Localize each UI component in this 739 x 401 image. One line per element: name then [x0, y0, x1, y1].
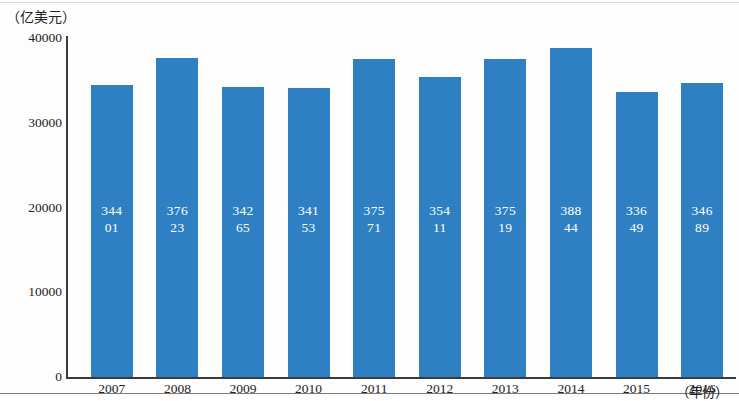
y-axis-tick: 30000 — [6, 115, 62, 131]
bar-value-label-line: 01 — [91, 219, 133, 236]
bar-value-label-line: 89 — [681, 219, 723, 236]
bar-value-label: 37623 — [156, 202, 198, 236]
x-axis-tick: 2011 — [342, 381, 406, 399]
bar-value-label-line: 342 — [222, 202, 264, 219]
bar-slot: 34265 — [211, 36, 275, 377]
figure-top-border — [0, 2, 739, 3]
bar-value-label-line: 375 — [484, 202, 526, 219]
bar-value-label-line: 341 — [288, 202, 330, 219]
bar[interactable]: 37623 — [156, 58, 198, 377]
bar-value-label-line: 388 — [550, 202, 592, 219]
bar[interactable]: 34401 — [91, 85, 133, 377]
bar-value-label-line: 344 — [91, 202, 133, 219]
bar-value-label-line: 375 — [353, 202, 395, 219]
bar-value-label: 35411 — [419, 202, 461, 236]
bar-value-label-line: 346 — [681, 202, 723, 219]
x-axis-tick: 2009 — [211, 381, 275, 399]
bar[interactable]: 38844 — [550, 48, 592, 377]
y-axis-tick: 10000 — [6, 284, 62, 300]
bar[interactable]: 34153 — [288, 88, 330, 377]
bar-value-label-line: 65 — [222, 219, 264, 236]
x-axis-tick: 2012 — [408, 381, 472, 399]
bar-slot: 37571 — [342, 36, 406, 377]
y-axis-tick: 0 — [6, 369, 62, 385]
x-axis-tick: 2010 — [277, 381, 341, 399]
bar-value-label-line: 49 — [616, 219, 658, 236]
bar-slot: 34689 — [670, 36, 734, 377]
bar-value-label: 33649 — [616, 202, 658, 236]
bar[interactable]: 34265 — [222, 87, 264, 377]
y-axis-tick: 40000 — [6, 30, 62, 46]
bar-value-label-line: 19 — [484, 219, 526, 236]
bar-slot: 35411 — [408, 36, 472, 377]
bar-slot: 33649 — [605, 36, 669, 377]
plot-area: 3440137623342653415337571354113751938844… — [68, 36, 736, 377]
bar-value-label: 34265 — [222, 202, 264, 236]
x-axis-unit-label: （年份） — [676, 381, 728, 401]
bar[interactable]: 37571 — [353, 59, 395, 377]
bar[interactable]: 33649 — [616, 92, 658, 377]
bar-value-label-line: 53 — [288, 219, 330, 236]
y-axis-tick-labels: 010000200003000040000 — [0, 0, 62, 398]
bar[interactable]: 37519 — [484, 59, 526, 377]
bar-value-label-line: 336 — [616, 202, 658, 219]
bar-value-label: 38844 — [550, 202, 592, 236]
bar-value-label: 34153 — [288, 202, 330, 236]
x-axis-tick: 2015 — [605, 381, 669, 399]
bar-value-label-line: 354 — [419, 202, 461, 219]
bar[interactable]: 35411 — [419, 77, 461, 377]
bar-value-label-line: 376 — [156, 202, 198, 219]
x-axis-tick-labels: 2007200820092010201120122013201420152016 — [68, 381, 736, 399]
x-axis-tick: 2014 — [539, 381, 603, 399]
bar-value-label-line: 44 — [550, 219, 592, 236]
bar-value-label: 37519 — [484, 202, 526, 236]
bar-series: 3440137623342653415337571354113751938844… — [68, 36, 736, 377]
bar-slot: 34401 — [80, 36, 144, 377]
bar-slot: 37623 — [146, 36, 210, 377]
x-axis-tick: 2008 — [146, 381, 210, 399]
bar-value-label-line: 71 — [353, 219, 395, 236]
bar-slot: 34153 — [277, 36, 341, 377]
bar-value-label: 34401 — [91, 202, 133, 236]
x-axis-tick: 2013 — [474, 381, 538, 399]
bar-slot: 38844 — [539, 36, 603, 377]
x-axis-tick: 2007 — [80, 381, 144, 399]
y-axis-tick: 20000 — [6, 200, 62, 216]
x-axis-line — [66, 377, 736, 379]
bar[interactable]: 34689 — [681, 83, 723, 377]
bar-value-label-line: 23 — [156, 219, 198, 236]
bar-slot: 37519 — [474, 36, 538, 377]
bar-value-label-line: 11 — [419, 219, 461, 236]
bar-value-label: 34689 — [681, 202, 723, 236]
bar-value-label: 37571 — [353, 202, 395, 236]
